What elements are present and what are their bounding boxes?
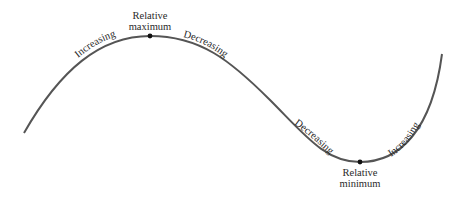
- diagram-canvas: Increasing Decreasing Decreasing Increas…: [0, 0, 469, 199]
- relative-minimum-label-line2: minimum: [340, 178, 381, 189]
- relative-maximum-label-line1: Relative: [133, 10, 168, 21]
- decreasing-label-upper: Decreasing: [183, 28, 232, 60]
- decreasing-label-lower: Decreasing: [293, 117, 337, 157]
- relative-minimum-dot: [358, 160, 363, 165]
- increasing-label-right: Increasing: [386, 119, 422, 158]
- function-curve: [24, 36, 442, 162]
- relative-maximum-dot: [148, 34, 153, 39]
- relative-maximum-label-line2: maximum: [129, 21, 172, 32]
- relative-minimum-label-line1: Relative: [343, 167, 378, 178]
